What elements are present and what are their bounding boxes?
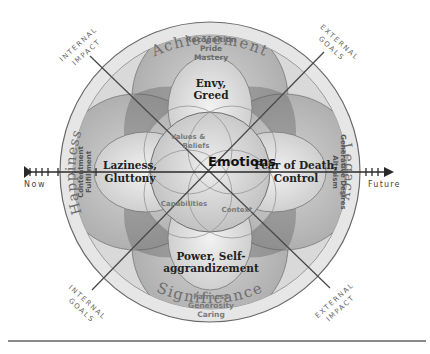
inner-petal-bottom-text: Power, Self- aggrandizement [163, 250, 259, 274]
svg-text:Laziness,: Laziness, [103, 159, 157, 171]
inner-petal-left-text: Laziness, Gluttony [103, 159, 157, 184]
center-title-emotions: Emotions [208, 154, 276, 169]
axis-future-label: Future [368, 180, 401, 189]
axis-now-label: Now [24, 180, 46, 189]
svg-text:Envy,: Envy, [196, 77, 227, 89]
now-arrow-tail-icon [24, 166, 32, 178]
center-context: Context [222, 206, 254, 214]
future-arrowhead-icon [384, 167, 394, 177]
center-capabilities: Capabilities [161, 200, 207, 208]
svg-text:Mastery: Mastery [194, 53, 228, 62]
label-internal-goals: INTERNAL GOALS [67, 284, 108, 325]
svg-text:Gluttony: Gluttony [104, 172, 156, 184]
svg-text:aggrandizement: aggrandizement [163, 262, 259, 274]
svg-text:Recognition: Recognition [186, 35, 236, 44]
svg-text:Pride: Pride [200, 44, 222, 53]
svg-text:Generosity: Generosity [188, 301, 234, 310]
bottom-divider [8, 340, 426, 342]
inner-petal-top-text: Envy, Greed [193, 77, 229, 101]
svg-text:Fairness: Fairness [193, 292, 229, 301]
label-external-impact: EXTERNAL IMPACT [314, 281, 357, 323]
svg-text:Fulfillment: Fulfillment [85, 150, 93, 193]
svg-text:Greed: Greed [193, 89, 229, 101]
svg-text:Beliefs: Beliefs [183, 142, 210, 150]
happiness-attributes: Contentment Fulfillment [77, 145, 93, 197]
svg-text:Control: Control [274, 172, 318, 184]
svg-text:Contentment: Contentment [77, 145, 85, 197]
svg-text:Power, Self-: Power, Self- [176, 250, 245, 262]
svg-text:Generative Desires: Generative Desires [339, 134, 347, 209]
svg-text:Values &: Values & [171, 133, 206, 141]
label-external-goals: EXTERNAL GOALS [317, 23, 361, 62]
emotions-diagram: Now Future Achievement Significance Happ… [0, 0, 430, 354]
svg-text:Caring: Caring [197, 310, 225, 319]
